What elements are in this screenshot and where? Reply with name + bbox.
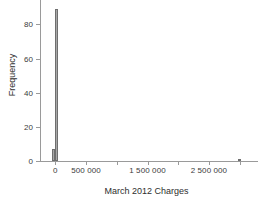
x-tick-label: 2 500 000 [191,166,228,175]
y-tick-label: 20 [24,122,33,131]
x-tick-label: 0 [53,166,58,175]
y-tick-mark [36,93,40,94]
x-axis-line [40,161,258,162]
x-axis-title: March 2012 Charges [0,186,259,196]
y-axis-title: Frequency [7,35,17,115]
x-tick-label: 500 000 [71,166,101,175]
x-tick-mark [148,161,149,165]
histogram-figure: 0500 0001 500 0002 500 000 020406080 Mar… [0,0,259,205]
y-tick-label: 60 [24,54,33,63]
y-tick-mark [36,127,40,128]
y-tick-mark [36,161,40,162]
x-tick-mark [178,161,179,165]
x-tick-mark [209,161,210,165]
x-tick-label: 1 500 000 [129,166,166,175]
x-tick-mark [240,161,241,165]
y-tick-label: 80 [24,20,33,29]
x-tick-mark [117,161,118,165]
y-tick-mark [36,59,40,60]
x-tick-mark [86,161,87,165]
y-tick-mark [36,24,40,25]
histogram-bar [55,9,58,161]
y-tick-label: 0 [29,157,33,166]
x-tick-mark [55,161,56,165]
y-tick-label: 40 [24,88,33,97]
y-axis-line [40,0,41,162]
